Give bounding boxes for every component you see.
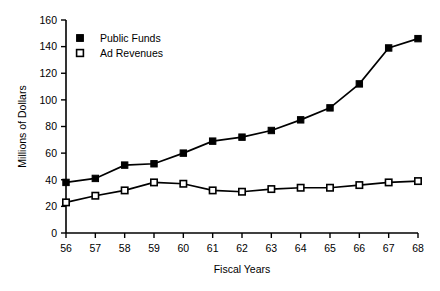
series-layer [63, 35, 421, 205]
data-point-marker [268, 186, 274, 192]
x-tick-label: 62 [236, 242, 248, 254]
legend-label: Ad Revenues [100, 47, 163, 59]
x-axis-tick-labels: 56575859606162636465666768 [60, 242, 424, 254]
y-tick-label: 60 [45, 147, 57, 159]
data-point-marker [268, 127, 274, 133]
data-point-marker [180, 181, 186, 187]
data-point-marker [356, 182, 362, 188]
legend-marker [77, 35, 84, 42]
x-tick-label: 67 [383, 242, 395, 254]
data-point-marker [239, 189, 245, 195]
line-chart: 020406080100120140160 565758596061626364… [0, 0, 440, 291]
data-point-marker [151, 161, 157, 167]
y-tick-label: 140 [39, 40, 57, 52]
x-tick-label: 58 [119, 242, 131, 254]
data-point-marker [209, 187, 215, 193]
data-point-marker [180, 150, 186, 156]
data-point-marker [297, 117, 303, 123]
x-tick-label: 56 [60, 242, 72, 254]
x-tick-label: 66 [353, 242, 365, 254]
y-axis-tick-labels: 020406080100120140160 [39, 14, 57, 239]
x-tick-label: 61 [207, 242, 219, 254]
data-point-marker [121, 187, 127, 193]
data-point-marker [121, 162, 127, 168]
data-point-marker [92, 175, 98, 181]
data-point-marker [385, 45, 391, 51]
data-point-marker [209, 138, 215, 144]
y-tick-label: 80 [45, 120, 57, 132]
y-tick-label: 40 [45, 174, 57, 186]
y-axis-title: Millions of Dollars [16, 85, 28, 167]
series-2 [63, 178, 421, 206]
data-point-marker [297, 185, 303, 191]
x-tick-label: 60 [177, 242, 189, 254]
legend-label: Public Funds [100, 32, 161, 44]
x-tick-label: 57 [89, 242, 101, 254]
y-tick-label: 120 [39, 67, 57, 79]
data-point-marker [415, 35, 421, 41]
chart-legend: Public FundsAd Revenues [77, 32, 163, 59]
x-tick-label: 63 [265, 242, 277, 254]
data-point-marker [415, 178, 421, 184]
y-tick-label: 0 [51, 227, 57, 239]
x-tick-label: 64 [295, 242, 307, 254]
data-point-marker [239, 134, 245, 140]
data-point-marker [327, 105, 333, 111]
data-point-marker [63, 199, 69, 205]
data-point-marker [92, 193, 98, 199]
y-tick-label: 160 [39, 14, 57, 26]
x-tick-label: 68 [412, 242, 424, 254]
data-point-marker [356, 81, 362, 87]
x-tick-label: 59 [148, 242, 160, 254]
legend-marker [77, 50, 84, 57]
x-tick-label: 65 [324, 242, 336, 254]
chart-container: 020406080100120140160 565758596061626364… [0, 0, 440, 291]
x-axis: 56575859606162636465666768 [60, 233, 424, 254]
data-point-marker [327, 185, 333, 191]
data-point-marker [63, 179, 69, 185]
y-tick-label: 100 [39, 94, 57, 106]
y-tick-label: 20 [45, 200, 57, 212]
data-point-marker [385, 179, 391, 185]
data-point-marker [151, 179, 157, 185]
x-axis-title: Fiscal Years [214, 263, 271, 275]
series-line [66, 39, 418, 183]
